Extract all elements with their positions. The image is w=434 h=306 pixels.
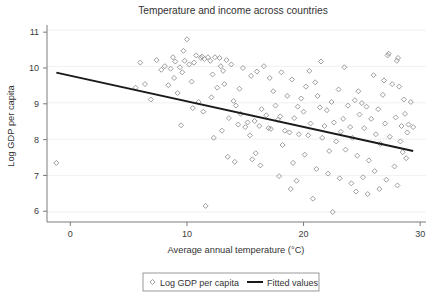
data-point <box>307 68 312 73</box>
data-point <box>271 89 276 94</box>
data-point <box>179 123 184 128</box>
data-point <box>322 124 327 129</box>
data-point <box>250 157 255 162</box>
data-point <box>302 152 307 157</box>
data-point <box>212 55 217 60</box>
y-tick-label: 11 <box>30 27 39 37</box>
data-point <box>254 69 259 74</box>
data-point <box>253 151 258 156</box>
data-point <box>267 76 272 81</box>
data-point <box>247 133 252 138</box>
data-point <box>349 181 354 186</box>
data-point <box>184 37 189 42</box>
data-point <box>172 76 177 81</box>
data-point <box>364 104 369 109</box>
data-point <box>334 139 339 144</box>
y-tick-label: 8 <box>34 135 39 145</box>
data-point <box>342 65 347 70</box>
data-point <box>225 154 230 159</box>
data-point <box>406 122 411 127</box>
data-point <box>362 126 367 131</box>
data-point <box>236 122 241 127</box>
data-point <box>291 160 296 165</box>
y-tick-label: 7 <box>34 171 39 181</box>
x-axis-ticks: 0102030 <box>68 222 425 239</box>
data-point <box>365 192 370 197</box>
data-point <box>215 85 220 90</box>
data-point <box>252 118 257 123</box>
data-point <box>289 77 294 82</box>
data-point <box>209 95 214 100</box>
data-point <box>170 55 175 60</box>
x-axis-title: Average annual temperature (°C) <box>168 245 305 255</box>
data-point <box>343 147 348 152</box>
data-point <box>398 139 403 144</box>
data-point <box>324 108 329 113</box>
data-point <box>377 187 382 192</box>
data-point <box>222 82 227 87</box>
data-point <box>175 91 180 96</box>
data-point <box>337 176 342 181</box>
data-point <box>317 105 322 110</box>
x-tick-label: 0 <box>68 229 73 239</box>
legend-label-scatter: Log GDP per capita <box>160 278 239 288</box>
data-point <box>233 103 238 108</box>
data-point <box>226 116 231 121</box>
scatter-plot-svg: Temperature and income across countries … <box>0 0 434 306</box>
data-point <box>258 163 263 168</box>
y-tick-label: 6 <box>34 206 39 216</box>
data-point <box>221 68 226 73</box>
data-point <box>292 116 297 121</box>
data-point <box>257 124 262 129</box>
data-point <box>392 164 397 169</box>
x-tick-label: 30 <box>415 229 425 239</box>
data-point <box>382 78 387 83</box>
data-point <box>203 203 208 208</box>
data-point <box>237 86 242 91</box>
data-point <box>387 134 392 139</box>
data-point <box>352 98 357 103</box>
data-point <box>331 120 336 125</box>
data-point <box>403 111 408 116</box>
data-point <box>54 160 59 165</box>
data-point <box>338 129 343 134</box>
data-point <box>138 60 143 65</box>
data-point <box>249 73 254 78</box>
data-point <box>355 153 360 158</box>
data-point <box>405 130 410 135</box>
data-point <box>154 58 159 63</box>
data-point <box>372 169 377 174</box>
data-point <box>329 100 334 105</box>
data-point <box>224 58 229 63</box>
y-axis-title: Log GDP per capita <box>6 84 16 166</box>
data-point <box>310 196 315 201</box>
data-point <box>356 89 361 94</box>
data-point <box>390 82 395 87</box>
data-point <box>219 128 224 133</box>
data-point <box>148 97 153 102</box>
legend: Log GDP per capita Fitted values <box>143 273 319 291</box>
data-point <box>295 104 300 109</box>
data-point <box>393 115 398 120</box>
data-point <box>166 83 171 88</box>
data-point <box>376 107 381 112</box>
data-point <box>288 187 293 192</box>
data-point <box>285 93 290 98</box>
data-point <box>373 132 378 137</box>
data-point <box>182 58 187 63</box>
data-point <box>201 109 206 114</box>
data-point <box>306 133 311 138</box>
data-point <box>357 112 362 117</box>
data-point <box>371 73 376 78</box>
data-point <box>383 121 388 126</box>
data-point <box>190 106 195 111</box>
data-point <box>277 174 282 179</box>
y-tick-label: 9 <box>34 99 39 109</box>
data-point <box>232 159 237 164</box>
data-point <box>400 150 405 155</box>
data-point <box>308 121 313 126</box>
gridlines <box>47 30 426 212</box>
data-point <box>273 103 278 108</box>
data-point <box>411 125 416 130</box>
chart-title: Temperature and income across countries <box>138 5 328 16</box>
